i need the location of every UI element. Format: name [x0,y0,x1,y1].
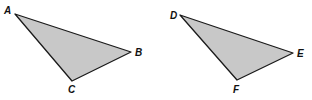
vertex-label-a: A [3,5,11,16]
triangle-abc [15,14,131,81]
vertex-label-c: C [68,84,76,95]
vertex-label-d: D [170,10,177,21]
vertex-label-e: E [297,48,304,59]
vertex-label-f: F [233,84,240,95]
triangle-diagram: A B C D E F [0,0,312,100]
vertex-label-b: B [135,47,142,58]
triangle-def [180,15,293,80]
